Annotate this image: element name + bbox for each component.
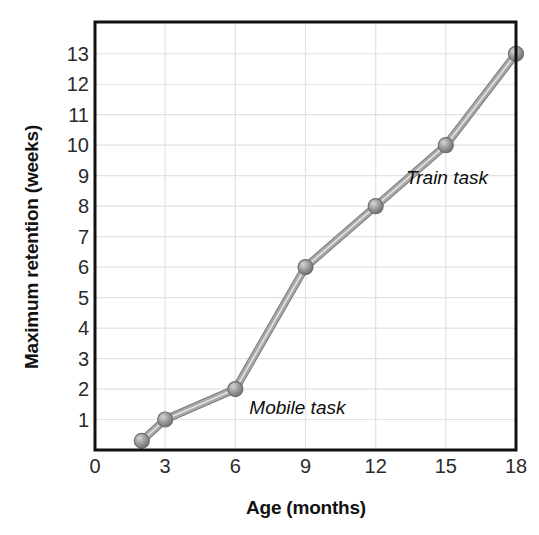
- y-tick-label: 13: [49, 42, 89, 65]
- y-tick-label: 9: [49, 164, 89, 187]
- y-tick-label: 5: [49, 286, 89, 309]
- data-point-marker: [298, 260, 313, 275]
- y-tick-label: 1: [49, 408, 89, 431]
- x-tick-label: 15: [435, 455, 457, 478]
- y-tick-label: 4: [49, 317, 89, 340]
- data-point-marker: [158, 412, 173, 427]
- y-tick-label: 7: [49, 225, 89, 248]
- x-tick-label: 9: [300, 455, 311, 478]
- y-tick-label: 2: [49, 378, 89, 401]
- y-axis-tick-labels: 12345678910111213: [45, 0, 89, 535]
- retention-line-chart: 12345678910111213 0369121518 Maximum ret…: [0, 0, 539, 535]
- x-tick-label: 12: [365, 455, 387, 478]
- y-tick-label: 3: [49, 347, 89, 370]
- y-tick-label: 10: [49, 134, 89, 157]
- x-tick-label: 6: [230, 455, 241, 478]
- x-axis-title: Age (months): [95, 497, 517, 519]
- y-tick-label: 11: [49, 103, 89, 126]
- x-tick-label: 0: [89, 455, 100, 478]
- y-tick-label: 6: [49, 256, 89, 279]
- data-point-marker: [438, 138, 453, 153]
- data-point-marker: [134, 433, 149, 448]
- y-tick-label: 8: [49, 195, 89, 218]
- y-axis-title: Maximum retention (weeks): [21, 47, 43, 447]
- data-point-marker: [228, 382, 243, 397]
- data-point-marker: [368, 199, 383, 214]
- series-annotation-label: Train task: [406, 167, 488, 189]
- series-annotation-label: Mobile task: [249, 397, 345, 419]
- x-tick-label: 3: [160, 455, 171, 478]
- y-tick-label: 12: [49, 73, 89, 96]
- x-tick-label: 18: [505, 455, 527, 478]
